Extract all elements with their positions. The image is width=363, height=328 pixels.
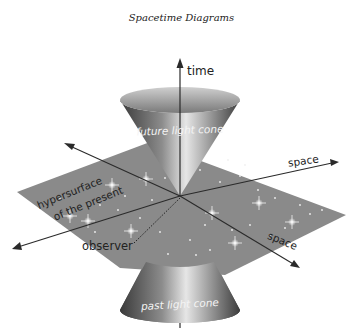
star — [321, 209, 323, 211]
star — [299, 204, 301, 206]
star — [284, 227, 286, 229]
star — [209, 249, 211, 251]
star — [139, 217, 141, 219]
star — [257, 189, 259, 191]
observer-label: observer — [82, 239, 133, 253]
star — [151, 199, 153, 201]
star — [244, 164, 246, 166]
star — [159, 231, 161, 233]
star — [117, 209, 119, 211]
star — [309, 213, 311, 215]
star — [219, 181, 221, 183]
star — [199, 169, 201, 171]
space-arrow-upper-right-icon — [330, 159, 339, 166]
star — [94, 231, 96, 233]
space-arrow-upper-left-icon — [64, 143, 75, 150]
spacetime-diagram: time future light cone past light cone s… — [0, 0, 363, 328]
star — [231, 229, 233, 231]
star — [124, 195, 126, 197]
space-arrow-lower-right-icon — [290, 260, 300, 268]
space-arrow-lower-left-icon — [12, 242, 22, 250]
space-label-upper: space — [287, 152, 319, 168]
time-label: time — [187, 64, 214, 78]
star — [249, 224, 251, 226]
star — [204, 224, 206, 226]
star — [227, 159, 229, 161]
star — [239, 175, 241, 177]
star — [189, 239, 191, 241]
star — [274, 197, 276, 199]
star — [164, 177, 166, 179]
time-arrow-icon — [177, 58, 184, 68]
